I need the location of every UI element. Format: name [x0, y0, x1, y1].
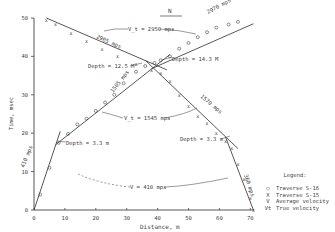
legend-symbol: X	[266, 192, 270, 198]
y-ticks: 01020304050	[21, 15, 34, 213]
point-traverse-s15: x	[150, 67, 153, 73]
x-tick-label: 0	[32, 215, 35, 221]
y-tick-label: 30	[21, 92, 28, 98]
north-arrow-label: N	[168, 7, 172, 14]
point-traverse-s16	[227, 23, 230, 26]
fit-line-label: 1505 mps	[109, 69, 131, 94]
point-traverse-s16	[76, 123, 79, 126]
point-traverse-s16	[134, 70, 137, 73]
y-tick-label: 40	[21, 53, 28, 59]
annotation-label: Depth = 3.3 m	[66, 140, 110, 147]
fit-lines	[34, 18, 253, 210]
arrow-depth-14-3	[162, 57, 172, 60]
arrow-v410-left	[78, 174, 130, 187]
legend-entry: Traverse S-15	[276, 192, 319, 198]
annotation-label: Depth = 3.3 m	[180, 136, 224, 143]
y-axis-label: Time, msec	[8, 97, 14, 130]
annotation-label: V_t = 1545 mps	[124, 115, 170, 122]
point-traverse-s15: x	[178, 92, 181, 98]
point-traverse-s16	[94, 109, 97, 112]
point-traverse-s16	[187, 41, 190, 44]
fit-line-label: 1570 mps	[199, 93, 224, 115]
x-tick-label: 40	[154, 215, 161, 221]
point-traverse-s15: x	[230, 145, 233, 151]
point-traverse-s15: x	[116, 53, 119, 59]
point-traverse-s15: x	[206, 120, 209, 126]
y-tick-label: 10	[21, 169, 28, 175]
fit-line	[34, 131, 60, 210]
point-traverse-s15: x	[236, 161, 239, 167]
point-traverse-s16	[85, 117, 88, 120]
axes	[34, 18, 254, 210]
x-tick-label: 70	[247, 215, 254, 221]
point-traverse-s15: x	[70, 30, 73, 36]
legend-entry: Traverse S-16	[276, 185, 319, 191]
north-arrow: N	[160, 7, 182, 16]
legend-symbol: Vt	[265, 205, 272, 211]
fit-line-label: 410 mps	[19, 145, 34, 169]
x-axis-label: Distance, m	[140, 223, 180, 230]
point-traverse-s15: x	[168, 78, 171, 84]
annotation-label: V = 410 mps	[130, 184, 166, 191]
point-traverse-s15: x	[224, 138, 227, 144]
annotation-label: Depth = 12.5 M	[88, 63, 135, 70]
point-traverse-s15: x	[45, 17, 48, 23]
y-tick-label: 0	[25, 207, 28, 213]
point-traverse-s15: x	[134, 61, 137, 67]
x-tick-label: 50	[185, 215, 192, 221]
point-traverse-s15: x	[252, 207, 255, 213]
x-tick-label: 10	[62, 215, 69, 221]
fit-line-label: 2905 mps	[95, 33, 122, 50]
point-traverse-s15: x	[100, 46, 103, 52]
annotation-arrows	[58, 29, 230, 187]
point-traverse-s16	[144, 65, 147, 68]
y-tick-label: 20	[21, 130, 28, 136]
seismic-traveltime-chart: 010203040506070 01020304050 xxxxxxxxxxxx…	[0, 0, 335, 232]
point-traverse-s15: x	[187, 103, 190, 109]
y-tick-label: 50	[21, 15, 28, 21]
legend-symbol: V	[266, 198, 270, 204]
x-tick-label: 30	[123, 215, 130, 221]
point-traverse-s16	[153, 61, 156, 64]
legend-symbol: ○	[266, 185, 270, 191]
point-traverse-s15: x	[196, 113, 199, 119]
arrow-vt1545-left	[102, 112, 123, 118]
annotation-label: Depth = 14.3 M	[172, 56, 219, 63]
arrow-v410-right	[165, 178, 228, 187]
point-traverse-s16	[215, 26, 218, 29]
x-tick-label: 60	[216, 215, 223, 221]
legend-title: Legend:	[283, 172, 306, 179]
legend: Legend:○Traverse S-16XTraverse S-15VAver…	[265, 172, 330, 212]
annotation-label: V_t = 2950 mps	[128, 26, 174, 33]
x-tick-label: 20	[92, 215, 99, 221]
fit-line-label: 2970 mps	[206, 0, 233, 16]
arrow-vt2950-left	[104, 29, 128, 31]
legend-entry: True velocity	[276, 205, 320, 212]
point-traverse-s15: x	[159, 70, 162, 76]
point-traverse-s15: x	[54, 21, 57, 27]
point-traverse-s16	[104, 101, 107, 104]
point-traverse-s16	[178, 47, 181, 50]
annotation-labels: 410 mps1505 mps2970 mps2905 mps1570 mps3…	[19, 0, 256, 198]
point-traverse-s15: x	[85, 38, 88, 44]
point-traverse-s16	[236, 20, 239, 23]
point-traverse-s16	[206, 31, 209, 34]
point-traverse-s16	[196, 36, 199, 39]
